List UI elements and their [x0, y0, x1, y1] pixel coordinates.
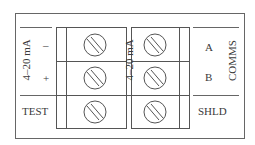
- right-group-label: COMMS: [227, 39, 238, 83]
- terminal-label-minus: –: [43, 40, 49, 51]
- middle-group-label: 4–20 mA: [124, 41, 135, 81]
- screw-icon-minus[interactable]: [84, 34, 106, 56]
- screw-icon-a[interactable]: [144, 34, 166, 56]
- right-terminal-block: [132, 28, 190, 129]
- screw-icon-plus[interactable]: [84, 67, 106, 89]
- screw-icon-shld[interactable]: [144, 101, 166, 123]
- terminal-label-b: B: [205, 72, 212, 83]
- screw-icon-test[interactable]: [84, 101, 106, 123]
- screw-icon-b[interactable]: [144, 67, 166, 89]
- terminal-label-test: TEST: [22, 106, 48, 117]
- terminal-label-a: A: [205, 42, 213, 53]
- left-group-label: 4–20 mA: [21, 41, 32, 81]
- terminal-label-plus: +: [43, 73, 49, 84]
- terminal-label-shld: SHLD: [198, 106, 227, 117]
